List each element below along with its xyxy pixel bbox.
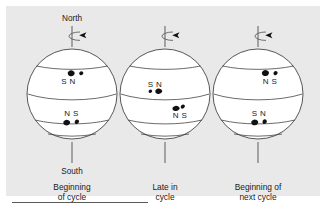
spot-polarity-label-north: N S xyxy=(263,77,278,86)
panel-beginning-of-cycle: North S N N S South Beginning xyxy=(27,14,117,202)
south-pole-label: South xyxy=(61,167,83,176)
panel-beginning-of-next-cycle: N S S N Beginning of next cycle xyxy=(213,26,303,202)
north-pole-label: North xyxy=(62,14,82,23)
spot-polarity-label-north: S N xyxy=(148,80,163,89)
solar-globe xyxy=(213,49,303,139)
panel-caption-line1: Beginning of xyxy=(235,182,282,192)
spot-polarity-label-north: S N xyxy=(61,77,76,86)
panel-caption-line1: Beginning xyxy=(53,182,91,192)
panel-caption-line2: next cycle xyxy=(239,192,277,202)
panel-late-in-cycle: S N N S Late in cycle xyxy=(120,26,210,202)
panel-caption-line2: of cycle xyxy=(58,192,87,202)
panel-caption-line1: Late in xyxy=(152,182,177,192)
spot-polarity-label-south: N S xyxy=(64,109,79,118)
caption-divider-rule xyxy=(12,202,148,203)
spot-polarity-label-south: N S xyxy=(173,111,188,120)
spot-polarity-label-south: S N xyxy=(252,109,267,118)
panel-caption-line2: cycle xyxy=(155,192,174,202)
solar-globe xyxy=(120,49,210,139)
sunspot-cycle-diagram: North S N N S South Beginning xyxy=(0,0,331,210)
solar-globe xyxy=(27,49,117,139)
